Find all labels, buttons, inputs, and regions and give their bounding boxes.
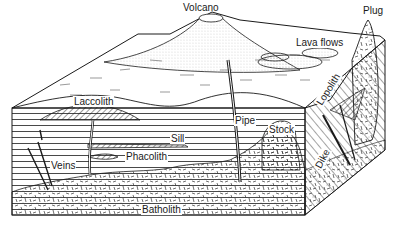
label-volcano: Volcano bbox=[182, 2, 220, 13]
label-batholith: Batholith bbox=[141, 204, 182, 215]
label-lava-flows: Lava flows bbox=[295, 37, 344, 48]
geology-block-diagram bbox=[0, 0, 393, 228]
label-phacolith: Phacolith bbox=[125, 151, 168, 162]
label-stock: Stock bbox=[268, 124, 295, 135]
sill-body bbox=[88, 144, 188, 148]
label-sill: Sill bbox=[170, 133, 185, 144]
label-plug: Plug bbox=[362, 5, 384, 16]
label-pipe: Pipe bbox=[234, 115, 256, 126]
volcano-crater bbox=[199, 14, 223, 22]
label-laccolith: Laccolith bbox=[73, 96, 114, 107]
label-veins: Veins bbox=[50, 160, 76, 171]
